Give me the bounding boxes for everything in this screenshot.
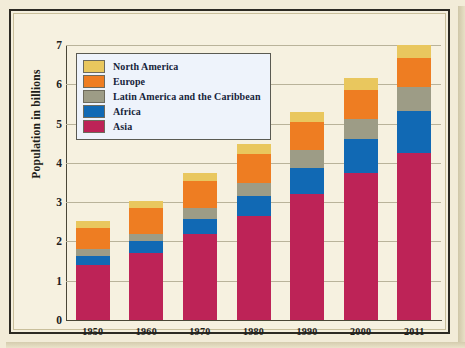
bar-segment[interactable] [129,208,163,234]
bar-segment[interactable] [237,183,271,197]
bar-segment[interactable] [183,181,217,209]
y-tick-label-6: 6 [40,78,62,90]
y-tick-label-3: 3 [40,196,62,208]
x-tick-label-1970: 1970 [170,326,230,337]
bar-segment[interactable] [397,45,431,59]
legend-item-label: Europe [113,76,145,87]
bar-segment[interactable] [183,234,217,320]
legend-swatch-icon [83,105,105,118]
stacked-bar[interactable] [344,78,378,320]
gridline-0 [66,320,441,321]
stacked-bar[interactable] [76,221,110,320]
chart-legend: North AmericaEuropeLatin America and the… [76,53,271,140]
stacked-bar[interactable] [129,201,163,320]
legend-swatch-icon [83,120,105,133]
bar-segment[interactable] [237,216,271,320]
bar-segment[interactable] [129,253,163,320]
bar-segment[interactable] [290,194,324,321]
legend-item-label: Africa [113,106,141,117]
bar-segment[interactable] [129,201,163,208]
bar-group[interactable] [397,45,431,320]
stacked-bar[interactable] [290,112,324,320]
bar-segment[interactable] [183,219,217,233]
bar-segment[interactable] [76,228,110,250]
x-tick-label-1950: 1950 [63,326,123,337]
bar-segment[interactable] [397,111,431,153]
chart-inner-frame: Population in billions 01234567 19501960… [13,13,446,330]
x-tick-label-2000: 2000 [331,326,391,337]
bar-segment[interactable] [344,139,378,173]
page-shadow-bottom [6,342,465,348]
page-shadow-right [458,6,465,348]
stacked-bar[interactable] [183,173,217,320]
bar-segment[interactable] [76,249,110,256]
bar-segment[interactable] [344,78,378,90]
bar-segment[interactable] [344,119,378,139]
legend-swatch-icon [83,75,105,88]
bar-segment[interactable] [290,122,324,150]
y-tick-label-4: 4 [40,157,62,169]
y-tick-label-7: 7 [40,39,62,51]
bar-segment[interactable] [290,168,324,194]
bar-segment[interactable] [344,173,378,320]
bar-segment[interactable] [397,87,431,111]
bar-segment[interactable] [237,144,271,153]
y-tick-label-0: 0 [40,314,62,326]
stacked-bar[interactable] [397,45,431,320]
bar-segment[interactable] [290,112,324,122]
legend-item[interactable]: North America [83,59,261,74]
y-tick-label-1: 1 [40,275,62,287]
bar-segment[interactable] [237,154,271,183]
bar-group[interactable] [344,45,378,320]
y-tick-label-5: 5 [40,118,62,130]
y-tick-label-2: 2 [40,235,62,247]
bar-segment[interactable] [237,196,271,216]
bar-segment[interactable] [76,256,110,265]
legend-item[interactable]: Europe [83,74,261,89]
legend-item-label: North America [113,61,178,72]
bar-segment[interactable] [76,221,110,228]
bar-segment[interactable] [76,265,110,320]
legend-item-label: Asia [113,121,132,132]
legend-item-label: Latin America and the Caribbean [113,91,261,102]
legend-item[interactable]: Latin America and the Caribbean [83,89,261,104]
y-axis-ticks: 01234567 [34,45,62,320]
bar-segment[interactable] [397,58,431,87]
x-tick-label-2011: 2011 [384,326,444,337]
bar-segment[interactable] [344,90,378,119]
legend-item[interactable]: Asia [83,119,261,134]
stacked-bar[interactable] [237,144,271,320]
legend-swatch-icon [83,90,105,103]
bar-segment[interactable] [290,150,324,167]
bar-segment[interactable] [129,241,163,254]
bar-group[interactable] [290,45,324,320]
bar-segment[interactable] [183,208,217,219]
x-tick-label-1980: 1980 [224,326,284,337]
x-tick-label-1990: 1990 [277,326,337,337]
legend-item[interactable]: Africa [83,104,261,119]
bar-segment[interactable] [183,173,217,181]
chart-page: Population in billions 01234567 19501960… [0,0,465,348]
x-tick-label-1960: 1960 [116,326,176,337]
bar-segment[interactable] [129,234,163,241]
legend-swatch-icon [83,60,105,73]
bar-segment[interactable] [397,153,431,320]
